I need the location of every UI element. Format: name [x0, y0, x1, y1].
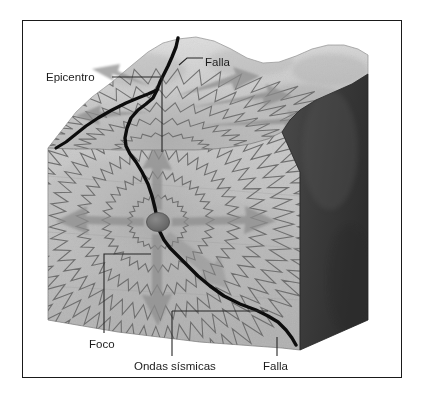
label-ondas-sismicas: Ondas sísmicas [134, 360, 216, 372]
label-falla-top: Falla [205, 56, 230, 68]
label-epicentro: Epicentro [46, 71, 95, 83]
label-foco: Foco [89, 338, 115, 350]
focus-point [147, 213, 170, 232]
figure-canvas: Epicentro Falla Foco Ondas sísmicas Fall… [0, 0, 423, 394]
label-falla-bottom: Falla [263, 360, 288, 372]
